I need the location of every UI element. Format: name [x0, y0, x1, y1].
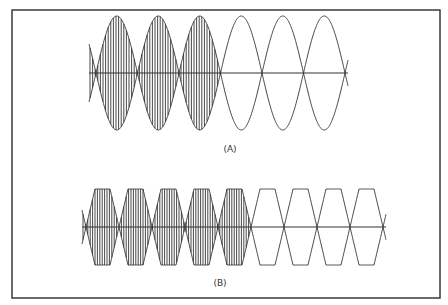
- panel-b-trapezoid-envelope: [82, 189, 386, 265]
- figure-frame: [12, 10, 440, 298]
- panel-a-sine-envelope: [89, 16, 348, 130]
- panel-a-label: (A): [223, 144, 236, 154]
- panel-b-label: (B): [213, 278, 226, 288]
